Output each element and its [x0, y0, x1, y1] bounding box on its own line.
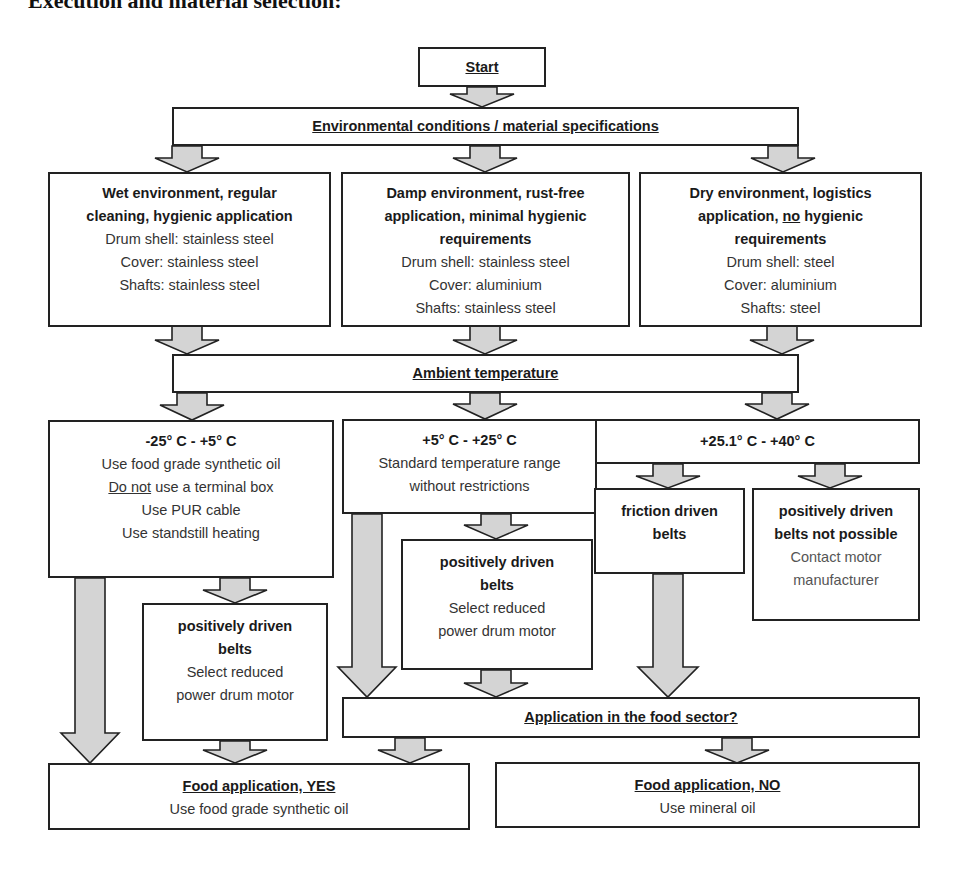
pos-left-detail-1: Select reduced	[144, 661, 326, 684]
arrow-down-icon	[453, 146, 517, 172]
ambient-label: Ambient temperature	[413, 362, 559, 385]
terminal-box-rest: use a terminal box	[151, 479, 274, 495]
positively-not-possible-box: positively driven belts not possible Con…	[752, 488, 920, 621]
arrow-down-icon	[750, 326, 814, 354]
arrow-down-icon	[636, 464, 700, 488]
cold-line-terminal-box: Do not use a terminal box	[50, 476, 332, 499]
wet-environment-box: Wet environment, regular cleaning, hygie…	[48, 172, 331, 327]
damp-environment-box: Damp environment, rust-free application,…	[341, 172, 630, 327]
mid-range-heading: +5° C - +25° C	[344, 429, 595, 452]
ambient-temperature-box: Ambient temperature	[172, 354, 799, 393]
positively-driven-mid-box: positively driven belts Select reduced p…	[401, 539, 593, 670]
arrow-down-icon	[203, 578, 267, 603]
not-possible-detail-1: Contact motor	[754, 546, 918, 569]
arrow-down-icon	[745, 393, 809, 419]
arrow-down-icon	[464, 670, 528, 697]
long-arrow-down-icon	[338, 514, 396, 697]
start-box: Start	[418, 47, 546, 87]
damp-heading-line2: application, minimal hygienic	[343, 205, 628, 228]
arrow-down-icon	[751, 146, 815, 172]
food-yes-heading: Food application, YES	[50, 775, 468, 798]
arrow-down-icon	[378, 738, 442, 763]
dry-cover: Cover: aluminium	[641, 274, 920, 297]
dry-drum-shell: Drum shell: steel	[641, 251, 920, 274]
food-sector-label: Application in the food sector?	[524, 706, 737, 729]
food-yes-box: Food application, YES Use food grade syn…	[48, 763, 470, 830]
damp-heading-line3: requirements	[343, 228, 628, 251]
wet-shafts: Shafts: stainless steel	[50, 274, 329, 297]
damp-heading-line1: Damp environment, rust-free	[343, 182, 628, 205]
wet-cover: Cover: stainless steel	[50, 251, 329, 274]
cold-line-oil: Use food grade synthetic oil	[50, 453, 332, 476]
arrow-down-icon	[203, 741, 267, 763]
hot-range-heading: +25.1° C - +40° C	[597, 430, 918, 453]
not-possible-heading-2: belts not possible	[754, 523, 918, 546]
long-arrow-down-icon	[638, 574, 698, 697]
arrow-down-icon	[450, 87, 514, 107]
arrow-down-icon	[155, 326, 219, 354]
friction-driven-box: friction driven belts	[594, 488, 745, 574]
wet-heading-line2: cleaning, hygienic application	[50, 205, 329, 228]
mid-range-line1: Standard temperature range	[344, 452, 595, 475]
pos-left-detail-2: power drum motor	[144, 684, 326, 707]
food-sector-box: Application in the food sector?	[342, 697, 920, 738]
damp-drum-shell: Drum shell: stainless steel	[343, 251, 628, 274]
dry-heading-line2-post: hygienic	[800, 208, 863, 224]
not-possible-heading-1: positively driven	[754, 500, 918, 523]
arrow-down-icon	[464, 514, 528, 539]
long-arrow-down-icon	[61, 578, 119, 763]
start-label: Start	[465, 56, 498, 79]
food-no-detail: Use mineral oil	[497, 797, 918, 820]
pos-mid-heading-2: belts	[403, 574, 591, 597]
wet-heading-line1: Wet environment, regular	[50, 182, 329, 205]
cold-line-cable: Use PUR cable	[50, 499, 332, 522]
dry-heading-line1: Dry environment, logistics	[641, 182, 920, 205]
cold-line-heating: Use standstill heating	[50, 522, 332, 545]
dry-heading-line2: application, no hygienic	[641, 205, 920, 228]
pos-mid-heading-1: positively driven	[403, 551, 591, 574]
do-not-underlined: Do not	[108, 479, 151, 495]
cold-range-box: -25° C - +5° C Use food grade synthetic …	[48, 420, 334, 578]
mid-range-line2: without restrictions	[344, 475, 595, 498]
environment-box: Environmental conditions / material spec…	[172, 107, 799, 146]
arrow-down-icon	[798, 464, 862, 488]
environment-label: Environmental conditions / material spec…	[312, 115, 658, 138]
food-no-heading: Food application, NO	[497, 774, 918, 797]
arrow-down-icon	[705, 738, 769, 763]
dry-heading-line3: requirements	[641, 228, 920, 251]
food-no-box: Food application, NO Use mineral oil	[495, 762, 920, 828]
pos-left-heading-1: positively driven	[144, 615, 326, 638]
damp-shafts: Shafts: stainless steel	[343, 297, 628, 320]
friction-heading-1: friction driven	[596, 500, 743, 523]
damp-cover: Cover: aluminium	[343, 274, 628, 297]
dry-shafts: Shafts: steel	[641, 297, 920, 320]
pos-mid-detail-2: power drum motor	[403, 620, 591, 643]
arrow-down-icon	[453, 326, 517, 354]
arrow-down-icon	[160, 393, 224, 420]
arrow-down-icon	[155, 146, 219, 172]
arrow-down-icon	[453, 393, 517, 419]
pos-mid-detail-1: Select reduced	[403, 597, 591, 620]
cold-range-heading: -25° C - +5° C	[50, 430, 332, 453]
friction-heading-2: belts	[596, 523, 743, 546]
not-possible-detail-2: manufacturer	[754, 569, 918, 592]
dry-heading-line2-pre: application,	[698, 208, 783, 224]
positively-driven-left-box: positively driven belts Select reduced p…	[142, 603, 328, 741]
dry-heading-no-underlined: no	[783, 208, 801, 224]
wet-drum-shell: Drum shell: stainless steel	[50, 228, 329, 251]
mid-range-box: +5° C - +25° C Standard temperature rang…	[342, 419, 597, 514]
hot-range-box: +25.1° C - +40° C	[595, 419, 920, 464]
food-yes-detail: Use food grade synthetic oil	[50, 798, 468, 821]
dry-environment-box: Dry environment, logistics application, …	[639, 172, 922, 327]
pos-left-heading-2: belts	[144, 638, 326, 661]
